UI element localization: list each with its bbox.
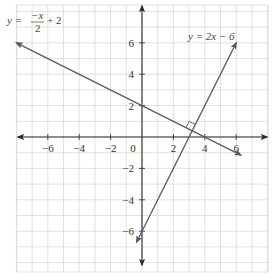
x-tick-label: −6 — [42, 142, 54, 154]
equation-label-1: y = −x 2 + 2 — [6, 9, 61, 34]
y-tick-label: 6 — [129, 37, 135, 49]
y-tick-label: −2 — [122, 162, 134, 174]
x-tick-label: −4 — [73, 142, 85, 154]
x-tick-label: −2 — [105, 142, 117, 154]
eq1-lhs: y = — [6, 14, 22, 26]
eq1-numerator: −x — [31, 9, 43, 21]
eq1-denominator: 2 — [35, 22, 41, 34]
plotted-line-1 — [16, 43, 241, 155]
coordinate-plane: −6−4−2246−6−4−22460 y = −x 2 + 2 y = 2x … — [0, 0, 280, 280]
origin-label: 0 — [130, 142, 136, 154]
y-tick-label: −6 — [122, 225, 134, 237]
y-tick-label: 4 — [129, 68, 135, 80]
plotted-line-2 — [137, 43, 237, 242]
axes — [18, 6, 267, 265]
x-tick-label: 4 — [202, 142, 208, 154]
equation-label-2: y = 2x − 6 — [187, 30, 235, 42]
x-tick-label: 2 — [171, 142, 177, 154]
eq1-rhs: + 2 — [47, 14, 61, 26]
y-tick-label: −4 — [122, 194, 134, 206]
